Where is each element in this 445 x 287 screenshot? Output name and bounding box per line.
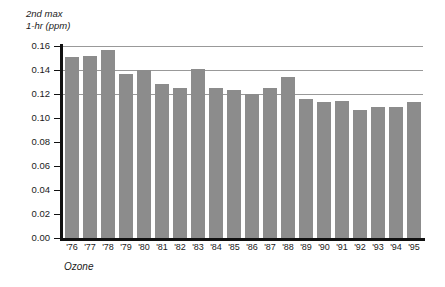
x-axis-spine	[60, 238, 425, 241]
y-tick-label: 0.14	[10, 65, 50, 75]
y-axis-title-line-2: 1-hr (ppm)	[26, 20, 70, 32]
y-tick-mark	[54, 70, 60, 71]
y-tick-mark	[54, 142, 60, 143]
y-tick-mark	[54, 190, 60, 191]
bar	[119, 74, 133, 238]
y-tick-label: 0.04	[10, 185, 50, 195]
bar	[83, 56, 97, 238]
bar	[209, 88, 223, 238]
bar	[191, 69, 205, 238]
ozone-bar-chart: 2nd max 1-hr (ppm) 0.000.020.040.060.080…	[0, 0, 445, 287]
bar	[407, 102, 421, 238]
x-axis-caption: Ozone	[64, 261, 93, 272]
y-tick-mark	[54, 238, 60, 239]
bar	[245, 94, 259, 238]
bar	[299, 99, 313, 238]
y-tick-label: 0.12	[10, 89, 50, 99]
plot-area	[63, 46, 423, 238]
y-tick-label: 0.00	[10, 233, 50, 243]
y-tick-label: 0.10	[10, 113, 50, 123]
bar	[353, 110, 367, 238]
y-tick-mark	[54, 46, 60, 47]
bar	[317, 102, 331, 238]
y-tick-mark	[54, 94, 60, 95]
y-axis-title: 2nd max 1-hr (ppm)	[26, 8, 70, 31]
bar	[101, 50, 115, 238]
bar	[389, 107, 403, 238]
bar	[173, 88, 187, 238]
y-tick-label: 0.08	[10, 137, 50, 147]
y-axis-title-line-1: 2nd max	[26, 8, 70, 20]
gridline	[63, 94, 423, 95]
y-tick-mark	[54, 166, 60, 167]
bar	[227, 90, 241, 238]
y-tick-mark	[54, 118, 60, 119]
bar	[155, 84, 169, 238]
y-tick-label: 0.16	[10, 41, 50, 51]
x-tick-label: '95	[402, 243, 426, 252]
bar	[335, 101, 349, 238]
gridline	[63, 70, 423, 71]
bar	[371, 107, 385, 238]
gridline	[63, 46, 423, 47]
bar	[137, 70, 151, 238]
bar	[263, 88, 277, 238]
y-tick-mark	[54, 214, 60, 215]
bar	[65, 57, 79, 238]
y-tick-label: 0.02	[10, 209, 50, 219]
bar	[281, 77, 295, 238]
y-tick-label: 0.06	[10, 161, 50, 171]
